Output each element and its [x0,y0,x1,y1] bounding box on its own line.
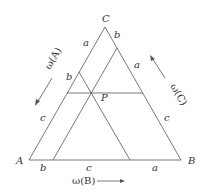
arrow-head-a-icon [35,99,40,106]
axis-label-c: ω(C) [168,82,189,108]
left-seg-b: b [66,71,72,82]
bottom-seg-b: b [40,162,46,173]
vertex-a-label: A [15,155,23,166]
ternary-diagram: C A B P a b c b a c b c a ω(A) ω(C) ω(B) [0,0,208,194]
axis-arrow-a [37,78,52,103]
bottom-seg-a: a [152,162,158,173]
right-seg-b: b [114,29,120,40]
right-seg-c: c [164,112,170,123]
vertex-c-label: C [102,13,110,24]
left-seg-a: a [83,37,89,48]
axis-label-b: ω(B) [72,175,95,186]
bottom-seg-c: c [86,162,92,173]
axis-arrow-c [152,58,165,78]
right-seg-a: a [134,59,140,70]
line-parallel-ac [53,48,117,160]
vertex-b-label: B [187,155,195,166]
line-parallel-bc [79,72,130,160]
point-p-label: P [100,92,108,103]
arrow-head-b-icon [120,179,125,183]
left-seg-c: c [40,112,46,123]
axis-label-a: ω(A) [42,45,63,71]
arrow-head-c-icon [150,55,155,61]
